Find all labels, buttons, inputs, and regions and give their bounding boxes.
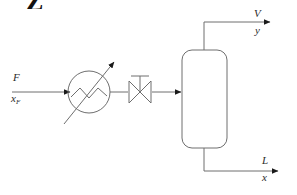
feed-composition-subscript: F xyxy=(16,98,20,106)
liquid-flow-label: L xyxy=(262,155,268,166)
liquid-composition-label: x xyxy=(262,172,267,183)
heat-exchanger-body xyxy=(68,71,110,113)
feed-flow-label: F xyxy=(13,72,20,83)
diagram-canvas xyxy=(0,0,297,195)
feed-composition-label: xF xyxy=(11,93,20,104)
flash-drum-vessel xyxy=(182,50,227,148)
vapor-flow-label: V xyxy=(254,8,261,19)
vapor-composition-label: y xyxy=(255,25,260,36)
process-flow-diagram: Z xyxy=(0,0,297,195)
